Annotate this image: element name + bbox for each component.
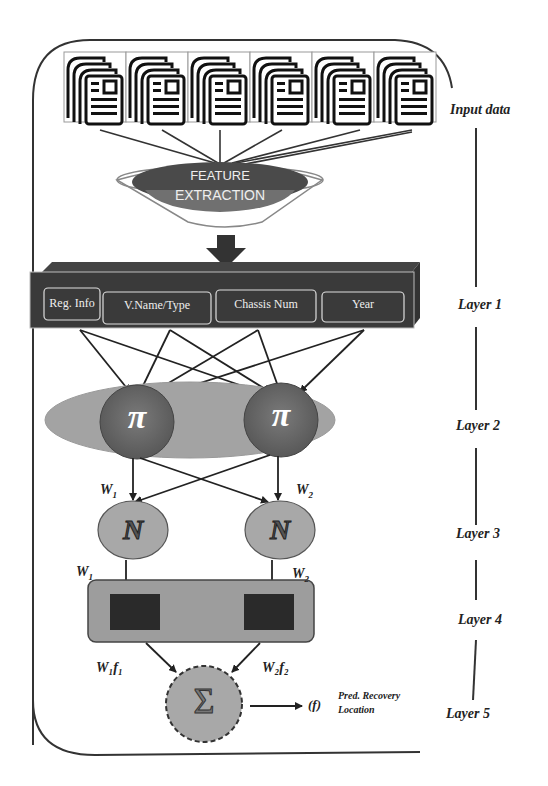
input-documents [64,52,436,124]
weight-w2-top: W2 [296,482,313,500]
pi-node-2: π [251,396,311,434]
output-label-line1: Pred. Recovery [338,690,400,701]
layer1-cell-vname-type: V.Name/Type [103,298,211,313]
output-symbol: (f) [308,697,321,713]
w-label: W [296,482,308,497]
weight-w2-mid: W2 [292,566,309,584]
n-node-2: N [250,514,310,546]
input-data-label: Input data [450,102,510,118]
sigma-symbol: Σ [174,680,234,722]
feature-extraction-line1: FEATURE [150,168,290,183]
n-node-1: N [103,514,163,546]
output-label-line2: Location [338,704,375,715]
layer4-label: Layer 4 [458,612,502,628]
layer1-cell-year: Year [322,297,404,312]
w-label: W [292,566,304,581]
layer5-label: Layer 5 [446,706,490,722]
layer1-cell-chassis-num: Chassis Num [216,297,316,312]
w-sub: 1 [112,490,117,500]
w-label: W [76,564,88,579]
w-label: W [100,482,112,497]
weight-w1-mid: W1 [76,564,93,582]
w-sub: 2 [308,490,313,500]
w-sub: 2 [304,574,309,584]
layer3-label: Layer 3 [456,526,500,542]
weight-w1-top: W1 [100,482,117,500]
layer4-group [88,580,314,642]
weight-w2f2: W₂f₂ [262,660,289,676]
feature-extraction-line2: EXTRACTION [150,187,290,203]
layer1-label: Layer 1 [458,297,502,313]
pi-node-1: π [107,398,167,436]
w-sub: 1 [88,572,93,582]
layer1-bar [30,262,420,328]
layer2-label: Layer 2 [456,418,500,434]
layer1-cell-reg-info: Reg. Info [44,296,100,311]
weight-w1f1: W₁f₁ [96,660,123,676]
